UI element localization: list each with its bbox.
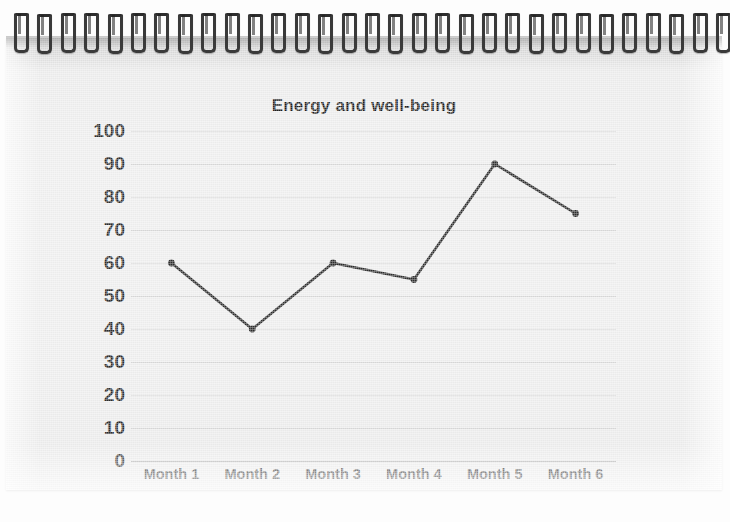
data-point-marker: [411, 276, 418, 283]
y-axis-tick-label: 60: [73, 252, 125, 274]
binding-ring: [529, 14, 544, 54]
data-point-marker: [572, 210, 579, 217]
binding-ring: [693, 13, 708, 53]
y-axis-tick-labels: 1009080706050403020100: [53, 131, 125, 461]
data-series-line: [131, 131, 616, 461]
y-axis-tick-label: 70: [73, 219, 125, 241]
y-axis-tick-label: 20: [73, 384, 125, 406]
plot-area: [131, 131, 616, 461]
binding-ring: [248, 14, 263, 54]
binding-ring: [178, 14, 193, 54]
data-point-marker: [330, 260, 337, 267]
notebook-page: Energy and well-being 100908070605040302…: [6, 38, 722, 490]
binding-ring: [622, 13, 637, 53]
binding-ring: [576, 13, 591, 53]
binding-ring: [84, 13, 99, 53]
binding-ring: [482, 13, 497, 53]
binding-ring: [225, 13, 240, 53]
binding-ring: [108, 14, 123, 54]
binding-ring: [388, 14, 403, 54]
notebook-chart-scene: Energy and well-being 100908070605040302…: [0, 0, 730, 522]
binding-ring: [669, 14, 684, 54]
chart-title: Energy and well-being: [6, 96, 722, 116]
binding-ring: [318, 14, 333, 54]
data-point-marker: [249, 326, 256, 333]
page-right-highlight: [682, 38, 722, 490]
y-axis-tick-label: 100: [73, 120, 125, 142]
binding-ring: [271, 13, 286, 53]
data-point-marker: [491, 161, 498, 168]
binding-ring: [295, 13, 310, 53]
binding-ring: [412, 13, 427, 53]
y-axis-tick-label: 50: [73, 285, 125, 307]
binding-ring: [435, 13, 450, 53]
binding-ring: [552, 13, 567, 53]
binding-ring: [646, 13, 661, 53]
spiral-binding: [0, 0, 730, 60]
binding-ring: [131, 13, 146, 53]
line-chart: Energy and well-being 100908070605040302…: [6, 38, 722, 490]
binding-ring: [599, 14, 614, 54]
binding-ring: [365, 13, 380, 53]
binding-ring: [154, 13, 169, 53]
y-axis-tick-label: 40: [73, 318, 125, 340]
binding-ring: [201, 13, 216, 53]
binding-ring: [459, 14, 474, 54]
binding-ring: [716, 13, 730, 53]
series-polyline: [171, 164, 575, 329]
binding-ring: [14, 13, 29, 53]
y-axis-tick-label: 10: [73, 417, 125, 439]
y-axis-tick-label: 30: [73, 351, 125, 373]
binding-ring: [342, 13, 357, 53]
binding-ring: [37, 14, 52, 54]
data-point-marker: [168, 260, 175, 267]
page-left-highlight: [6, 38, 40, 490]
page-bottom-highlight: [6, 444, 722, 490]
y-axis-tick-label: 80: [73, 186, 125, 208]
y-axis-tick-label: 90: [73, 153, 125, 175]
binding-ring: [505, 13, 520, 53]
binding-ring: [61, 13, 76, 53]
